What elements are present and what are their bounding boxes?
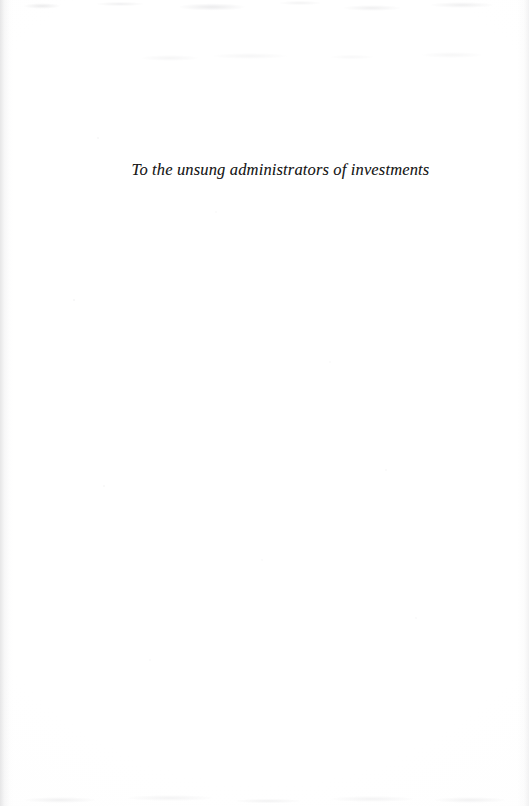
dedication-text: To the unsung administrators of investme… [132,160,430,181]
scan-artifact-top [0,0,529,26]
scanned-book-page: To the unsung administrators of investme… [0,0,529,806]
scan-artifact-bottom [0,782,529,806]
scan-artifact-specks [0,0,529,806]
scan-artifact-ghosting [0,48,529,70]
dedication-block: To the unsung administrators of investme… [0,160,529,181]
page-right-edge-shading [517,0,529,806]
page-left-edge-shading [0,0,14,806]
